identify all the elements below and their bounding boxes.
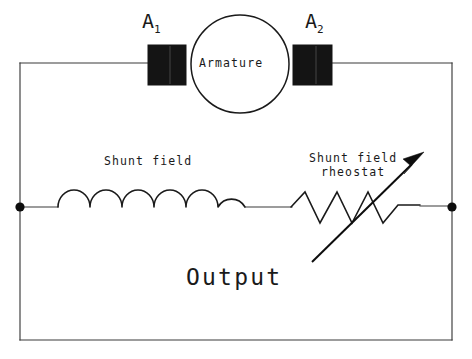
label-brush-a2: A2 bbox=[305, 10, 324, 37]
label-output: Output bbox=[186, 264, 282, 291]
label-rheostat-line2: rheostat bbox=[309, 166, 397, 180]
label-brush-a1-text: A bbox=[142, 9, 154, 33]
terminal-node-right bbox=[447, 202, 456, 211]
shunt-field-inductor bbox=[58, 190, 245, 207]
circuit-diagram: A1 A2 Armature Shunt field Shunt fieldrh… bbox=[0, 0, 472, 359]
label-brush-a2-subscript: 2 bbox=[317, 23, 324, 36]
brush-left bbox=[148, 45, 186, 85]
label-brush-a1: A1 bbox=[142, 10, 161, 37]
label-armature: Armature bbox=[199, 57, 263, 71]
label-rheostat-line1: Shunt field bbox=[309, 151, 397, 165]
label-brush-a2-text: A bbox=[305, 9, 317, 33]
circuit-schematic-canvas bbox=[0, 0, 472, 359]
brush-right bbox=[293, 45, 332, 85]
label-brush-a1-subscript: 1 bbox=[154, 23, 161, 36]
label-shunt-field-rheostat: Shunt fieldrheostat bbox=[309, 152, 397, 179]
terminal-node-left bbox=[15, 202, 24, 211]
label-shunt-field: Shunt field bbox=[104, 155, 192, 169]
